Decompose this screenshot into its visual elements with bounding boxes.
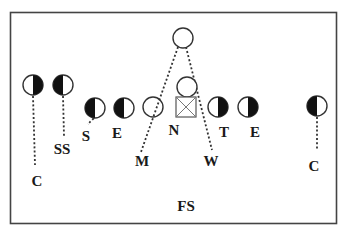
back-circle bbox=[177, 77, 197, 97]
defender-e-right bbox=[238, 97, 258, 117]
label-c-left: C bbox=[32, 173, 43, 189]
route-c-left bbox=[33, 96, 35, 165]
label-s: S bbox=[82, 128, 90, 144]
defender-c-right bbox=[307, 96, 327, 116]
label-t: T bbox=[219, 124, 229, 140]
label-fs: FS bbox=[177, 198, 195, 214]
defender-t bbox=[208, 97, 228, 117]
defender-e-left bbox=[114, 98, 134, 118]
formation-diagram: C SS S E N M W T E C FS bbox=[0, 0, 348, 236]
label-e-right: E bbox=[250, 124, 260, 140]
defender-ss bbox=[53, 75, 73, 95]
route-s bbox=[88, 118, 94, 124]
label-n: N bbox=[169, 122, 180, 138]
defender-c-left bbox=[23, 75, 43, 95]
label-c-right: C bbox=[309, 158, 320, 174]
label-m: M bbox=[135, 153, 149, 169]
label-ss: SS bbox=[54, 141, 71, 157]
defender-s bbox=[85, 98, 105, 118]
qb-circle bbox=[173, 28, 193, 48]
label-e-left: E bbox=[112, 125, 122, 141]
field-border bbox=[11, 13, 337, 224]
route-ss bbox=[63, 96, 64, 136]
center-square-x bbox=[176, 97, 196, 117]
label-w: W bbox=[204, 153, 219, 169]
open-circle-left bbox=[143, 97, 163, 117]
